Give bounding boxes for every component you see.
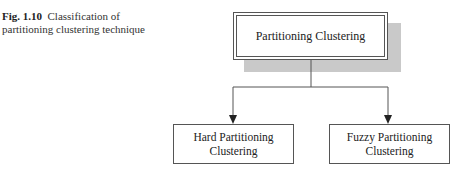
child-node-label-line1: Hard Partitioning [193, 130, 273, 144]
child-node-label-line1: Fuzzy Partitioning [347, 130, 432, 144]
arrow-down-icon [229, 115, 237, 124]
child-node-fuzzy: Fuzzy Partitioning Clustering [329, 124, 450, 164]
arrow-down-icon [384, 115, 392, 124]
child-node-label-line2: Clustering [347, 144, 432, 158]
child-node-hard: Hard Partitioning Clustering [173, 124, 294, 164]
child-node-label-line2: Clustering [193, 144, 273, 158]
